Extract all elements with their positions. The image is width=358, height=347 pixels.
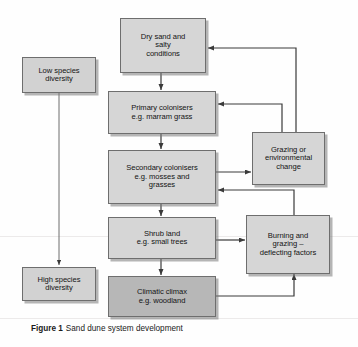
edge-grazing-to-primary xyxy=(218,104,282,132)
node-burning-label: Burning and grazing – deflecting factors xyxy=(260,232,317,258)
node-dry-sand-label: Dry sand and salty conditions xyxy=(141,33,186,59)
node-primary-colonisers: Primary colonisers e.g. marram grass xyxy=(108,91,216,134)
edge-burning-to-secondary xyxy=(218,190,294,215)
node-secondary-colonisers: Secondary colonisers e.g. mosses and gra… xyxy=(108,150,216,204)
node-secondary-colonisers-label: Secondary colonisers e.g. mosses and gra… xyxy=(126,164,198,190)
node-low-diversity-label: Low species diversity xyxy=(38,67,79,84)
node-low-species-diversity: Low species diversity xyxy=(22,57,96,93)
node-shrub-land: Shrub land e.g. small trees xyxy=(108,217,216,259)
figure-caption-text: Sand dune system development xyxy=(66,324,183,333)
edge-climax-to-burning xyxy=(216,274,294,296)
node-climatic-climax-label: Climatic climax e.g. woodland xyxy=(137,288,187,305)
node-climatic-climax: Climatic climax e.g. woodland xyxy=(108,276,216,317)
figure-caption: Figure 1Sand dune system development xyxy=(31,324,183,333)
figure-caption-label: Figure 1 xyxy=(31,324,63,333)
node-burning-grazing-deflecting: Burning and grazing – deflecting factors xyxy=(246,215,330,274)
node-high-species-diversity: High species diversity xyxy=(22,267,96,301)
node-dry-sand-conditions: Dry sand and salty conditions xyxy=(120,18,206,73)
figure-container: Dry sand and salty conditions Primary co… xyxy=(0,0,358,347)
node-primary-colonisers-label: Primary colonisers e.g. marram grass xyxy=(131,104,193,121)
node-high-diversity-label: High species diversity xyxy=(38,276,81,293)
node-grazing-environmental-change: Grazing or environmental change xyxy=(252,132,325,185)
node-shrub-land-label: Shrub land e.g. small trees xyxy=(137,230,188,247)
node-grazing-label: Grazing or environmental change xyxy=(265,146,312,172)
edge-grazing-to-dry-sand xyxy=(208,48,296,132)
